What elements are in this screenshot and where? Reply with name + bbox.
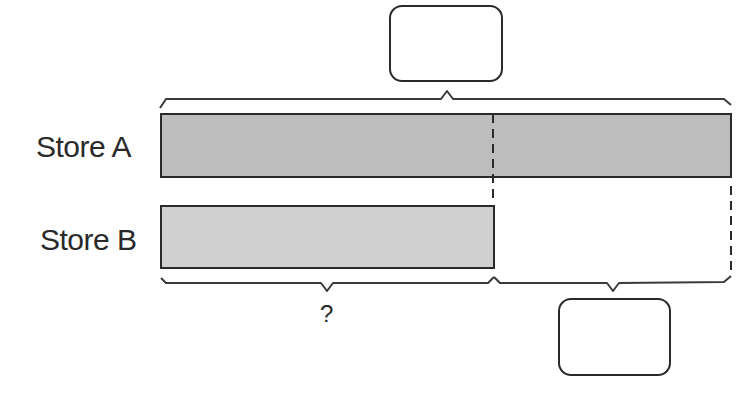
top-brace — [160, 91, 731, 108]
store-b-bar — [161, 206, 494, 268]
store-b-brace — [161, 277, 494, 291]
store-a-bar — [161, 114, 731, 177]
store-b-unknown-label: ? — [320, 300, 333, 327]
store-b-label: Store B — [40, 223, 137, 256]
store-a-label: Store A — [36, 130, 131, 163]
difference-brace — [494, 276, 731, 291]
difference-answer-box[interactable] — [559, 299, 670, 375]
tape-diagram: Store A Store B ? — [0, 0, 756, 401]
total-answer-box[interactable] — [390, 6, 502, 81]
